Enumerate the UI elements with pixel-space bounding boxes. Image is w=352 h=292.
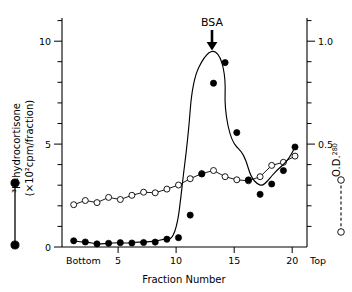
right-axis: 0.5 1.0 O.D.280 [307,18,342,247]
right-axis-title-subscript: 280 [331,143,339,155]
series-h3-point [71,238,77,244]
series-h3-point [94,241,100,247]
series-h3-hydrocortisone [71,51,299,247]
legend-right-marker-top [338,177,345,184]
series-od280 [71,153,298,208]
series-h3-point [117,240,123,246]
x-axis: 5 10 15 20 Bottom Top Fraction Number [62,247,326,285]
series-h3-point [141,239,147,245]
x-axis-end-label-top: Top [309,255,326,266]
series-h3-point [210,80,216,86]
series-od280-point [269,162,275,168]
legend-right-marker-bottom [338,229,345,236]
right-axis-title-base: O.D. [331,155,342,177]
x-axis-title: Fraction Number [142,274,226,285]
series-h3-point [187,212,193,218]
series-od280-point [211,168,217,174]
series-od280-point [106,194,112,200]
bsa-annotation: BSA [201,16,224,51]
series-h3-point [257,191,263,197]
series-h3-point [164,236,170,242]
x-axis-tick-label-20: 20 [286,255,298,266]
series-h3-point [280,168,286,174]
series-od280-point [141,189,147,195]
series-h3-point [106,240,112,246]
series-h3-point [222,60,228,66]
series-h3-point [245,177,251,183]
series-od280-point [117,197,123,203]
left-axis-tick-label-5: 5 [45,139,51,150]
series-h3-point [152,239,158,245]
x-axis-tick-label-5: 5 [115,255,121,266]
right-axis-title: O.D.280 [331,143,342,177]
series-od280-point [257,174,263,180]
x-axis-tick-label-10: 10 [170,255,182,266]
bsa-annotation-label: BSA [201,16,224,29]
chart-svg: 0 5 10 ³H-hydrocortisone (×10²cpm/fracti… [0,0,352,292]
chart-figure: 0 5 10 ³H-hydrocortisone (×10²cpm/fracti… [0,0,352,292]
series-od280-point [129,192,135,198]
bsa-down-arrow-icon [207,30,218,51]
legend-left-marker-top [11,179,19,187]
left-axis-tick-label-0: 0 [45,242,51,253]
series-od280-point [292,153,298,159]
series-od280-point [176,182,182,188]
series-od280-point [94,200,100,206]
series-od280-point [187,176,193,182]
x-axis-tick-label-15: 15 [228,255,240,266]
series-h3-point [292,144,298,150]
series-od280-point [234,177,240,183]
x-axis-end-label-bottom: Bottom [66,255,101,266]
left-axis: 0 5 10 ³H-hydrocortisone (×10²cpm/fracti… [11,18,62,253]
series-h3-point [175,235,181,241]
series-od280-point [71,202,77,208]
series-od280-point [82,198,88,204]
right-axis-tick-label-10: 1.0 [318,36,333,47]
series-od280-point [152,190,158,196]
series-h3-point [234,130,240,136]
series-h3-point [82,239,88,245]
series-h3-point [269,181,275,187]
series-h3-hydrocortisone-line [74,51,295,244]
series-od280-point [164,186,170,192]
series-h3-point [129,240,135,246]
series-h3-point [199,171,205,177]
left-axis-tick-label-10: 10 [39,36,51,47]
series-od280-point [222,174,228,180]
legend-left-marker-bottom [11,241,19,249]
legend-right-key [338,177,345,236]
left-axis-title-line2: (×10²cpm/fraction) [24,100,35,196]
